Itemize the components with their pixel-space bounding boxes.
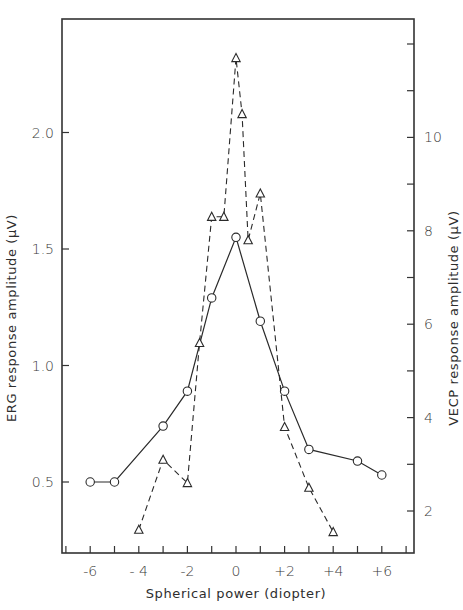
triangle-marker [208, 212, 216, 220]
circle-marker [183, 387, 191, 395]
triangle-marker [329, 528, 337, 536]
triangle-marker [280, 422, 288, 430]
x-axis-ticks [66, 546, 406, 553]
right-y-tick-label: 2 [424, 503, 433, 519]
triangle-marker [256, 189, 264, 197]
right-y-tick-label: 6 [424, 316, 433, 332]
circle-marker [110, 478, 118, 486]
triangle-marker [135, 525, 143, 533]
left-y-tick-label: 1.0 [32, 358, 54, 374]
x-tick-label: 0 [232, 563, 241, 579]
x-tick-label: +2 [274, 563, 295, 579]
plot-frame [62, 19, 414, 553]
left-y-axis-ticks: 0.51.01.52.0 [32, 125, 69, 491]
x-tick-label: +4 [323, 563, 344, 579]
triangle-marker [305, 483, 313, 491]
x-axis-tick-labels: -6- 4-20+2+4+6 [83, 563, 392, 579]
chart: -6- 4-20+2+4+6 0.51.01.52.0 246810 Spher… [0, 0, 463, 610]
circle-marker [208, 294, 216, 302]
circle-marker [86, 478, 94, 486]
right-y-axis-ticks: 246810 [407, 44, 442, 519]
circle-marker [256, 317, 264, 325]
circle-marker [159, 422, 167, 430]
triangle-marker [238, 110, 246, 118]
left-y-tick-label: 1.5 [32, 241, 54, 257]
circle-marker [232, 233, 240, 241]
circle-marker [280, 387, 288, 395]
triangle-marker [159, 455, 167, 463]
triangle-marker [232, 54, 240, 62]
right-y-tick-label: 10 [424, 129, 442, 145]
left-y-tick-label: 2.0 [32, 125, 54, 141]
erg-series [86, 233, 386, 486]
x-tick-label: +6 [371, 563, 392, 579]
circle-marker [378, 471, 386, 479]
left-y-axis-title: ERG response amplitude (µV) [4, 214, 19, 422]
triangle-marker [195, 338, 203, 346]
vecp-series [135, 54, 338, 536]
circle-marker [305, 445, 313, 453]
triangle-marker [244, 236, 252, 244]
right-y-tick-label: 4 [424, 410, 433, 426]
x-axis-title: Spherical power (diopter) [146, 586, 327, 601]
x-tick-label: -2 [180, 563, 194, 579]
vecp-line [139, 58, 333, 532]
x-tick-label: -6 [83, 563, 97, 579]
right-y-axis-title: VECP response amplitude (µV) [446, 210, 461, 425]
erg-line [90, 237, 382, 482]
circle-marker [353, 457, 361, 465]
right-y-tick-label: 8 [424, 223, 433, 239]
data-series [86, 54, 386, 536]
x-tick-label: - 4 [130, 563, 148, 579]
left-y-tick-label: 0.5 [32, 474, 54, 490]
